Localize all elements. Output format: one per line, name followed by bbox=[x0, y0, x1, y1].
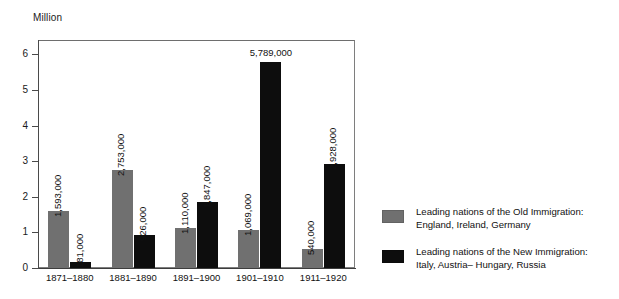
legend-swatch-old bbox=[382, 210, 404, 223]
y-tick-label: 0 bbox=[14, 263, 28, 273]
y-axis-title: Million bbox=[33, 12, 62, 23]
y-tick-label: 2 bbox=[14, 192, 28, 202]
bar-value-label: 1,593,000 bbox=[53, 175, 63, 217]
y-tick-label: 3 bbox=[14, 156, 28, 166]
x-tick-label-1: 1881–1890 bbox=[109, 272, 157, 283]
chart-root: Million 0123456 1,593,000181,0002,753,00… bbox=[0, 0, 619, 299]
x-tick-label-0: 1871–1880 bbox=[46, 272, 94, 283]
bar-new-3[interactable] bbox=[260, 62, 281, 268]
legend: Leading nations of the Old Immigration:E… bbox=[382, 206, 614, 286]
legend-label: Leading nations of the New Immigration:I… bbox=[416, 246, 614, 271]
y-tick-label: 5 bbox=[14, 85, 28, 95]
bar-value-label: 1,069,000 bbox=[243, 194, 253, 236]
bar-value-label: 1,847,000 bbox=[202, 166, 212, 208]
bar-old-2[interactable] bbox=[175, 228, 196, 268]
y-tick-label: 6 bbox=[14, 49, 28, 59]
legend-label-line2: Italy, Austria– Hungary, Russia bbox=[416, 259, 614, 272]
legend-item-new[interactable]: Leading nations of the New Immigration:I… bbox=[382, 246, 614, 272]
legend-swatch-new bbox=[382, 250, 404, 263]
bar-new-4[interactable] bbox=[324, 164, 345, 268]
bar-old-1[interactable] bbox=[112, 170, 133, 268]
x-tick-label-3: 1901–1910 bbox=[236, 272, 284, 283]
bar-value-label: 2,928,000 bbox=[328, 127, 338, 169]
bar-value-label: 181,000 bbox=[75, 233, 85, 267]
legend-item-old[interactable]: Leading nations of the Old Immigration:E… bbox=[382, 206, 614, 232]
x-tick-label-4: 1911–1920 bbox=[300, 272, 347, 283]
legend-label: Leading nations of the Old Immigration:E… bbox=[416, 206, 614, 231]
bar-new-2[interactable] bbox=[197, 202, 218, 268]
bar-value-label: 2,753,000 bbox=[116, 134, 126, 176]
bar-value-label: 540,000 bbox=[306, 220, 316, 254]
x-axis-line bbox=[38, 268, 356, 269]
bar-value-label: 926,000 bbox=[138, 207, 148, 241]
y-tick-mark bbox=[32, 268, 39, 269]
legend-label-line1: Leading nations of the Old Immigration: bbox=[416, 206, 614, 219]
y-tick-label: 1 bbox=[14, 227, 28, 237]
y-tick-label: 4 bbox=[14, 121, 28, 131]
bar-old-0[interactable] bbox=[48, 211, 69, 268]
legend-label-line2: England, Ireland, Germany bbox=[416, 219, 614, 232]
legend-label-line1: Leading nations of the New Immigration: bbox=[416, 246, 614, 259]
bar-value-label: 1,110,000 bbox=[180, 193, 190, 235]
x-tick-label-2: 1891–1900 bbox=[173, 272, 221, 283]
bar-value-label: 5,789,000 bbox=[250, 48, 292, 58]
